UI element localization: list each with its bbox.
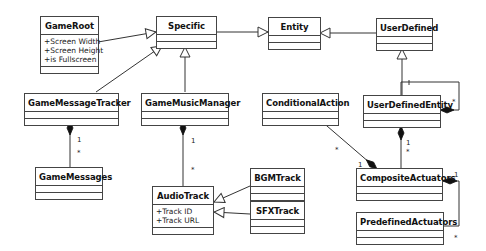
class-attributes	[36, 186, 102, 193]
class-name: UserDefinedEntity	[364, 96, 440, 114]
class-compositeactuators[interactable]: CompositeActuators	[356, 168, 443, 201]
class-operations	[357, 194, 442, 200]
mult-gmt-many: *	[77, 149, 81, 157]
gen-sfxtrack-audiotrack	[214, 212, 250, 214]
attribute: +Track URL	[156, 216, 210, 225]
mult-ude-ca-many: *	[406, 148, 410, 156]
class-name: AudioTrack	[153, 187, 213, 205]
class-name: BGMTrack	[251, 169, 304, 187]
class-conditionalaction[interactable]: ConditionalAction	[262, 93, 339, 126]
class-operations	[357, 238, 443, 244]
class-name: GameMessages	[36, 168, 102, 186]
class-name: GameRoot	[41, 17, 98, 35]
class-name: GameMessageTracker	[25, 94, 118, 112]
class-attributes	[357, 187, 442, 194]
mult-pred-many: *	[454, 234, 458, 242]
gen-gameroot-specific	[98, 32, 156, 42]
class-predefinedactuators[interactable]: PredefinedActuators	[356, 212, 444, 245]
class-attributes	[377, 37, 432, 44]
class-attributes	[364, 114, 440, 121]
mult-gmm-many: *	[191, 166, 195, 174]
class-operations	[269, 43, 320, 49]
class-gameroot[interactable]: GameRoot +Screen Width +Screen Height +i…	[40, 16, 99, 74]
class-name: GameMusicManager	[142, 94, 228, 112]
class-gamemessages[interactable]: GameMessages	[35, 167, 103, 200]
class-name: Entity	[269, 18, 320, 36]
class-userdefined[interactable]: UserDefined	[376, 18, 433, 51]
class-attributes	[251, 220, 304, 227]
mult-cond-many: *	[335, 146, 339, 154]
class-attributes	[357, 231, 443, 238]
class-attributes	[142, 112, 228, 119]
class-gamemusicmanager[interactable]: GameMusicManager	[141, 93, 229, 126]
uml-class-diagram: 1 * 1 * * 1 * * 1 1 * GameRoot +Screen W…	[0, 0, 486, 251]
class-operations	[36, 193, 102, 199]
class-attributes	[251, 187, 304, 194]
class-audiotrack[interactable]: AudioTrack +Track ID +Track URL	[152, 186, 214, 235]
class-operations	[377, 44, 432, 50]
class-specific[interactable]: Specific	[156, 16, 217, 49]
class-operations	[153, 228, 213, 234]
class-sfxtrack[interactable]: SFXTrack	[250, 201, 305, 234]
class-userdefinedentity[interactable]: UserDefinedEntity	[363, 95, 441, 128]
class-attributes: +Track ID +Track URL	[153, 205, 213, 228]
class-operations	[251, 194, 304, 200]
class-attributes	[157, 35, 216, 42]
attribute: +Screen Width	[44, 37, 95, 46]
class-name: PredefinedActuators	[357, 213, 443, 231]
mult-gmm-one: 1	[191, 137, 195, 145]
class-attributes	[25, 112, 118, 119]
class-entity[interactable]: Entity	[268, 17, 321, 50]
class-operations	[251, 227, 304, 233]
class-bgmtrack[interactable]: BGMTrack	[250, 168, 305, 201]
attribute: +is Fullscreen	[44, 55, 95, 64]
class-name: UserDefined	[377, 19, 432, 37]
class-operations	[263, 119, 338, 125]
class-operations	[25, 119, 118, 125]
class-gamemessagetracker[interactable]: GameMessageTracker	[24, 93, 119, 126]
class-operations	[364, 121, 440, 127]
class-name: Specific	[157, 17, 216, 35]
attribute: +Track ID	[156, 207, 210, 216]
class-name: ConditionalAction	[263, 94, 338, 112]
class-operations	[157, 42, 216, 48]
mult-gmt-one: 1	[77, 136, 81, 144]
gen-bgmtrack-audiotrack	[214, 186, 250, 202]
class-attributes: +Screen Width +Screen Height +is Fullscr…	[41, 35, 98, 67]
attribute: +Screen Height	[44, 46, 95, 55]
class-operations	[142, 119, 228, 125]
class-attributes	[263, 112, 338, 119]
class-name: SFXTrack	[251, 202, 304, 220]
class-attributes	[269, 36, 320, 43]
gen-gamemessagetracker-specific	[96, 46, 162, 92]
class-operations	[41, 67, 98, 73]
mult-ude-ca-one: 1	[406, 139, 410, 147]
class-name: CompositeActuators	[357, 169, 442, 187]
